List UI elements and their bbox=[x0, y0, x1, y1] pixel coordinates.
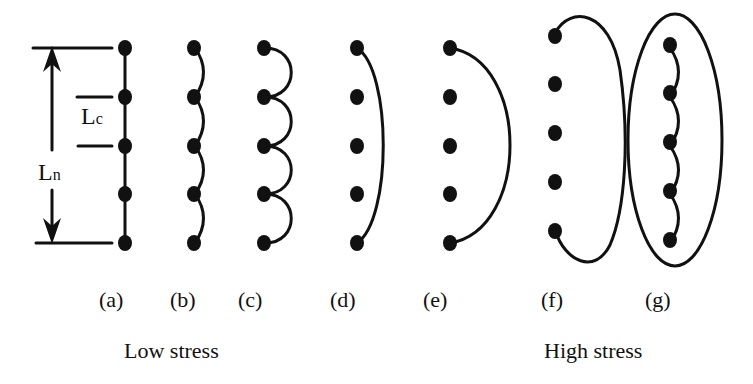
ln-label: Ln bbox=[38, 160, 61, 184]
panel-label-e: (e) bbox=[423, 289, 447, 311]
panel-e-chain bbox=[450, 48, 510, 243]
panel-label-f: (f) bbox=[541, 289, 563, 311]
panel-a-lines bbox=[33, 48, 125, 243]
panel-label-g: (g) bbox=[645, 289, 671, 311]
panel-label-b: (b) bbox=[170, 289, 196, 311]
panel-label-c: (c) bbox=[238, 289, 262, 311]
panel-label-a: (a) bbox=[99, 289, 123, 311]
panel-f-loop bbox=[555, 17, 625, 262]
group-label-high-stress: High stress bbox=[544, 340, 642, 362]
panel-label-d: (d) bbox=[330, 289, 356, 311]
lc-label: Lc bbox=[81, 104, 103, 128]
group-label-low-stress: Low stress bbox=[124, 340, 219, 362]
crosslink-diagram bbox=[0, 0, 753, 384]
